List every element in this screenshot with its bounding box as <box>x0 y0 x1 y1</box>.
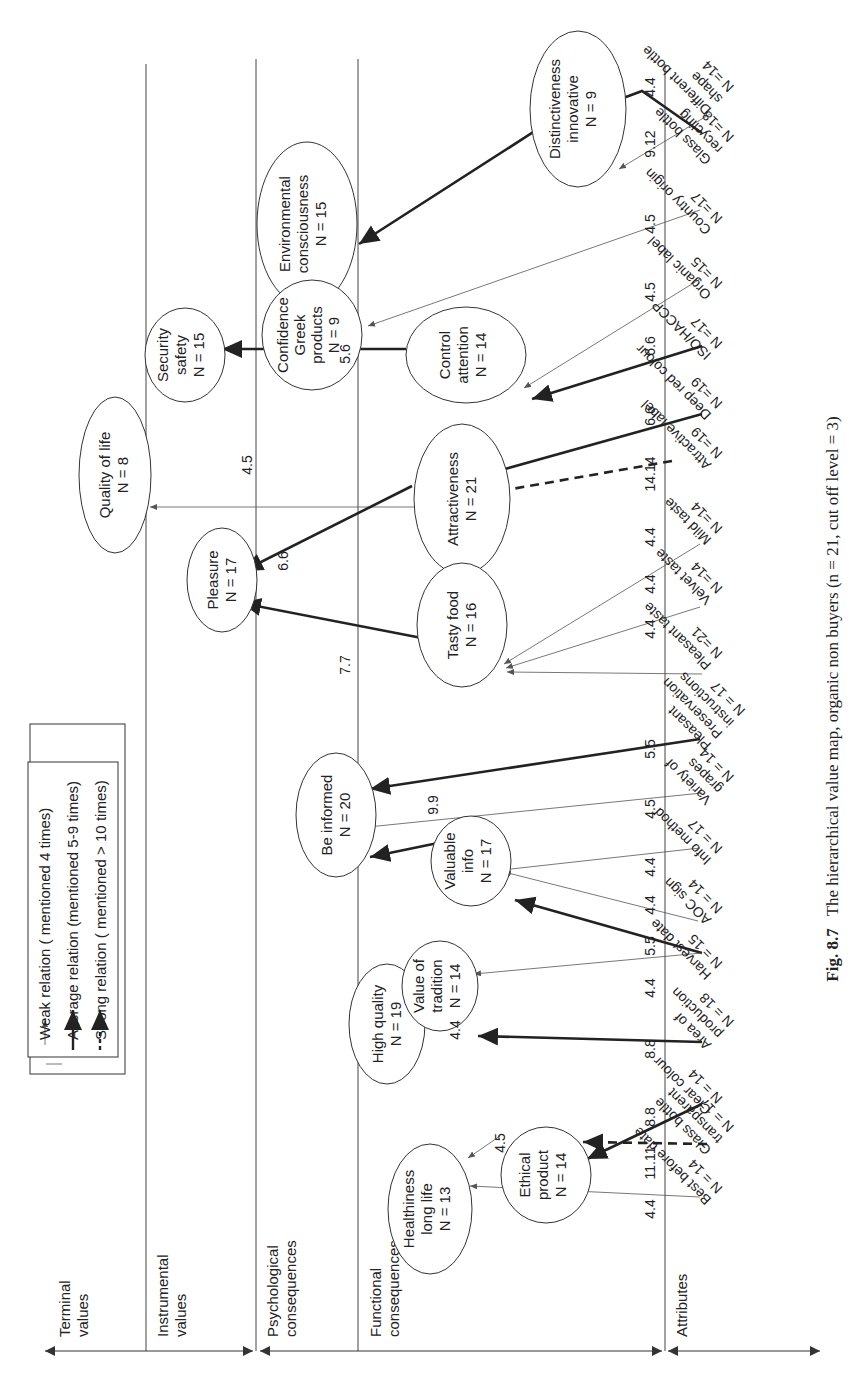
svg-text:PleasureN = 17: PleasureN = 17 <box>204 550 239 609</box>
attr-different-bottle-shape: Different bottleshapeN =14 <box>638 20 736 118</box>
value-velvet: 4.4 <box>642 574 658 594</box>
value-pleasure-attr: 6.6 <box>275 551 291 571</box>
value-organic: 4.5 <box>642 282 658 302</box>
node-confidence-greek-products: ConfidenceGreekproductsN = 9 <box>262 280 362 390</box>
level-label-instrumental: Instrumentalvalues <box>154 1254 189 1337</box>
attr-aoc-sign: AOC signN = 14 <box>660 863 725 928</box>
value-harvest-tradition: 4.4 <box>642 978 658 998</box>
value-qol: 4.5 <box>239 455 255 475</box>
node-value-of-tradition: Value oftraditionN = 14 <box>402 941 478 1031</box>
legend-weak-label: Weak relation ( mentioned 4 times) <box>36 808 53 1040</box>
node-ethical-product: EthicalproductN = 14 <box>501 1127 591 1223</box>
value-area: 8.8 <box>642 1039 658 1059</box>
edge-tasty-pleasure <box>241 603 427 639</box>
node-be-informed: Be informedN = 20 <box>296 753 376 877</box>
value-confidence: 4.5 <box>642 214 658 234</box>
node-pleasure: PleasureN = 17 <box>187 528 257 632</box>
edge-harvest-tradition <box>474 953 702 974</box>
value-security: 5.6 <box>337 344 353 364</box>
svg-text:Value oftraditionN = 14: Value oftraditionN = 14 <box>410 958 463 1013</box>
edge-area-tradition <box>478 1036 702 1042</box>
node-tasty-food: Tasty foodN = 16 <box>417 563 507 687</box>
value-be-informed: 9.9 <box>425 795 441 815</box>
value-preservation: 5.5 <box>642 739 658 759</box>
legend-average-label: Average relation (mentioned 5-9 times) <box>64 781 81 1040</box>
edge-infomethod-valuable <box>502 848 700 870</box>
node-security-safety: SecuritysafetyN = 15 <box>145 308 225 402</box>
legend-strong-label: Strong relation ( mentioned > 10 times) <box>92 780 109 1040</box>
edge-attractiveness-pleasure <box>243 486 412 571</box>
edge-valuable-informed <box>370 843 438 857</box>
svg-text:ControlattentionN = 14: ControlattentionN = 14 <box>436 326 489 384</box>
node-control-attention: ControlattentionN = 14 <box>406 307 526 403</box>
attr-mild-taste: Mild tasteN =14 <box>660 483 725 548</box>
level-label-terminal: Terminalvalues <box>56 1280 91 1337</box>
level-label-psychological: Psychologicalconsequences <box>264 1240 299 1337</box>
value-high-quality: 4.4 <box>447 1020 463 1040</box>
value-aoc: 4.4 <box>642 895 658 915</box>
attr-info-method: Info methodN = 17 <box>651 793 726 868</box>
node-quality-of-life: Quality of lifeN = 8 <box>79 397 151 553</box>
attribute-labels: Different bottleshapeN =14 Glass bottler… <box>630 20 748 1208</box>
figure-caption: Fig. 8.7The hierarchical value map, orga… <box>823 416 842 981</box>
node-distinctiveness-innovative: DistinctivenessinnovativeN = 9 <box>530 31 626 187</box>
value-environmental: 9.12 <box>642 130 658 157</box>
value-distinctiveness: 4.4 <box>642 77 658 97</box>
level-label-attributes: Attributes <box>673 1274 690 1337</box>
node-healthiness-long-life: Healthinesslong lifeN = 13 <box>388 1144 472 1274</box>
svg-text:EthicalproductN = 14: EthicalproductN = 14 <box>516 1149 569 1200</box>
node-valuable-info: ValuableinfoN = 17 <box>431 816 511 906</box>
hierarchical-value-map: Terminalvalues Instrumentalvalues Psycho… <box>0 0 857 1399</box>
value-best-before: 4.4 <box>642 1199 658 1219</box>
node-attractiveness: AttractivenessN = 21 <box>414 424 510 574</box>
value-mild: 4.4 <box>642 527 658 547</box>
value-healthiness: 4.5 <box>492 1133 508 1153</box>
value-harvest-valuable: 5.5 <box>642 936 658 956</box>
value-attractive-label: 14.14 <box>642 456 658 491</box>
attr-velvet-taste: Velvet tasteN =14 <box>651 534 725 608</box>
value-info-method: 4.4 <box>642 857 658 877</box>
legend-box: Weak relation ( mentioned 4 times) Avera… <box>28 762 118 1057</box>
svg-text:SecuritysafetyN = 15: SecuritysafetyN = 15 <box>154 327 207 382</box>
edge-pleasant-tasty <box>507 672 702 674</box>
value-pleasure-tasty: 7.7 <box>337 655 353 675</box>
level-label-functional: Functionalconsequences <box>367 1240 402 1337</box>
